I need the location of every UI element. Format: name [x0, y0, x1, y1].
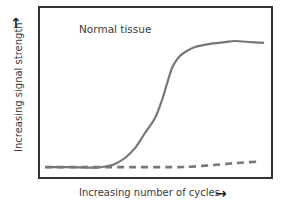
x-axis-arrow-icon: →: [215, 185, 227, 201]
chart: Normal tissue Increasing number of cycle…: [0, 0, 287, 217]
solid-series-line: [45, 41, 264, 168]
series-layer: [45, 41, 264, 168]
plot-frame: [39, 7, 272, 178]
annotation-normal-tissue: Normal tissue: [79, 23, 151, 35]
x-axis-label: Increasing number of cycles: [79, 187, 220, 198]
y-axis-arrow-icon: ↑: [10, 15, 22, 31]
y-axis-label: Increasing signal strength: [13, 22, 24, 152]
